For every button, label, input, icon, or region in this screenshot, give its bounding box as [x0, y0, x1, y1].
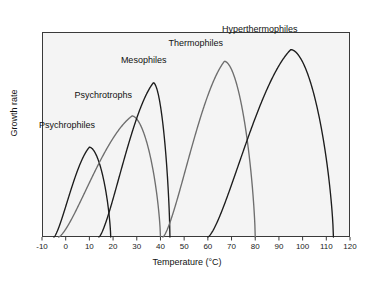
curve-label-psychrophiles: Psychrophiles [39, 120, 95, 130]
x-axis-title: Temperature (°C) [0, 257, 374, 267]
growth-rate-temperature-figure: -100102030405060708090100110120 Psychrop… [0, 0, 374, 293]
x-tick-label: 110 [314, 242, 338, 251]
x-tick-label: 60 [196, 242, 220, 251]
y-axis-title: Growth rate [9, 73, 19, 153]
x-tick-label: 10 [77, 242, 101, 251]
x-tick-label: 50 [172, 242, 196, 251]
x-tick-label: 90 [267, 242, 291, 251]
x-tick-label: 80 [243, 242, 267, 251]
curve-label-hyperthermophiles: Hyperthermophiles [222, 24, 298, 34]
x-tick-label: 120 [338, 242, 362, 251]
curve-label-mesophiles: Mesophiles [121, 55, 167, 65]
x-tick-label: 100 [291, 242, 315, 251]
x-tick-label: 70 [220, 242, 244, 251]
x-tick-label: -10 [30, 242, 54, 251]
curve-label-psychrotrophs: Psychrotrophs [75, 90, 133, 100]
curve-label-thermophiles: Thermophiles [169, 38, 224, 48]
x-tick-label: 20 [101, 242, 125, 251]
plot-area [42, 32, 350, 237]
x-tick-label: 30 [125, 242, 149, 251]
x-tick-label: 0 [54, 242, 78, 251]
x-tick-label: 40 [148, 242, 172, 251]
